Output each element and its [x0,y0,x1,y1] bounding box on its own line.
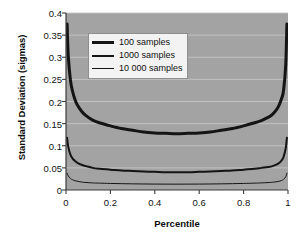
legend-item-label: 10 000 samples [119,63,183,74]
legend-line-icon [92,55,114,57]
legend-line-icon [92,68,114,69]
legend-line-icon [92,41,114,44]
legend-item-label: 100 samples [119,37,170,48]
chart-figure: Standard Deviation (sigmas) 00.050.10.15… [0,0,303,241]
x-axis-title: Percentile [66,218,288,229]
x-tick-marks [66,190,288,194]
legend-item: 100 samples [92,36,183,49]
legend-item-label: 1000 samples [119,50,175,61]
legend-item: 1000 samples [92,49,183,62]
legend-item: 10 000 samples [92,62,183,75]
chart-legend: 100 samples 1000 samples 10 000 samples [88,33,188,79]
